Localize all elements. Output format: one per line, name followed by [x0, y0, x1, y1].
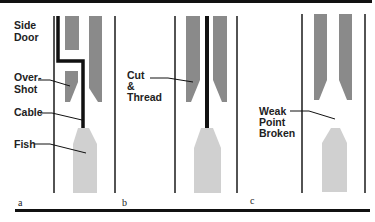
- tool-right-body: [213, 16, 227, 102]
- label-overshot-1: Over-: [14, 71, 42, 83]
- panel-letter-c: c: [250, 195, 255, 206]
- side-door-block: [65, 16, 79, 50]
- overshot-left-body: [65, 71, 78, 102]
- panel-letter-b: b: [122, 197, 127, 208]
- label-thread: Thread: [127, 91, 162, 103]
- label-overshot-2: Shot: [14, 83, 38, 95]
- fish: [73, 128, 97, 193]
- fish: [322, 128, 347, 192]
- panel-letter-a: a: [18, 197, 23, 208]
- label-cable: Cable: [14, 106, 43, 118]
- top-border: [0, 0, 372, 3]
- tool-left-body: [186, 16, 200, 102]
- panel-b: Cut & Thread b: [122, 16, 237, 208]
- label-side-door-2: Door: [14, 31, 39, 43]
- overshot-right-body: [89, 16, 102, 102]
- cut-and-thread-diagram: Side Door Over- Shot Cable Fish a Cut & …: [0, 0, 375, 222]
- cable: [205, 16, 209, 128]
- label-side-door-1: Side: [14, 19, 36, 31]
- tool-left-body: [314, 14, 327, 100]
- bottom-border: [15, 209, 370, 212]
- fish: [194, 128, 221, 193]
- label-broken: Broken: [259, 127, 295, 139]
- label-fish: Fish: [14, 138, 36, 150]
- tool-right-body: [339, 14, 352, 100]
- panel-c: Weak Point Broken c: [250, 14, 365, 206]
- panel-a: Side Door Over- Shot Cable Fish a: [14, 16, 115, 208]
